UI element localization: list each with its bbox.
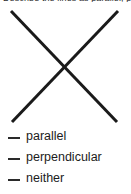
answer-blank-icon[interactable]	[8, 137, 20, 139]
choice-label-parallel: parallel	[26, 129, 66, 143]
choice-row-parallel[interactable]: parallel	[0, 129, 131, 150]
answer-blank-icon[interactable]	[8, 179, 20, 181]
intersecting-lines-figure	[0, 6, 131, 128]
answer-choice-list: parallel perpendicular neither	[0, 129, 131, 192]
choice-label-perpendicular: perpendicular	[26, 150, 102, 164]
figure-svg	[0, 6, 131, 128]
answer-blank-icon[interactable]	[8, 158, 20, 160]
clipped-prompt-text: Describe the lines as parallel, perpendi…	[3, 0, 131, 2]
choice-row-perpendicular[interactable]: perpendicular	[0, 150, 131, 171]
choice-row-neither[interactable]: neither	[0, 171, 131, 192]
choice-label-neither: neither	[26, 171, 64, 185]
